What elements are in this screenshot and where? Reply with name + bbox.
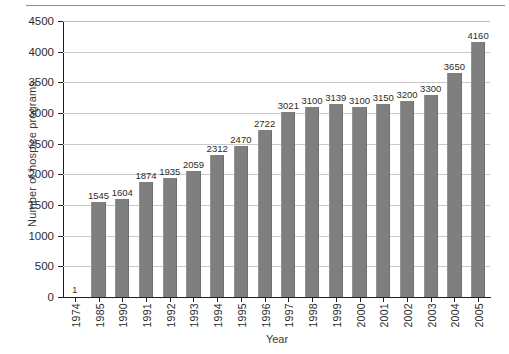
y-axis-label: 3500 [0, 76, 54, 88]
bar-1991[interactable] [139, 182, 153, 297]
value-label-1985: 1545 [88, 190, 109, 201]
bar-2003[interactable] [424, 95, 438, 297]
bar-1998[interactable] [305, 107, 319, 297]
x-tick-1995 [241, 298, 242, 302]
y-axis-label: 1000 [0, 230, 54, 242]
y-axis-label: 4500 [0, 15, 54, 27]
x-tick-2004 [454, 298, 455, 302]
bar-1985[interactable] [91, 202, 105, 297]
value-label-1994: 2312 [207, 143, 228, 154]
x-tick-1974 [75, 298, 76, 302]
value-label-2000: 3100 [349, 95, 370, 106]
bar-2001[interactable] [376, 104, 390, 297]
bar-chart-figure: Number of hospice programs 0500100015002… [0, 0, 509, 354]
x-axis-label-2000: 2000 [355, 303, 367, 328]
x-axis-label-2001: 2001 [378, 303, 390, 328]
x-axis-label-1999: 1999 [331, 303, 343, 328]
value-label-2003: 3300 [420, 83, 441, 94]
value-label-1995: 2470 [230, 134, 251, 145]
y-tick-0 [58, 297, 63, 298]
value-label-2002: 3200 [396, 89, 417, 100]
x-axis-label-2004: 2004 [449, 303, 461, 328]
x-tick-2001 [383, 298, 384, 302]
x-axis-label-1993: 1993 [188, 303, 200, 328]
x-tick-1990 [122, 298, 123, 302]
value-label-1992: 1935 [159, 166, 180, 177]
value-label-2005: 4160 [468, 30, 489, 41]
x-axis-label-1990: 1990 [117, 303, 129, 328]
x-tick-1999 [336, 298, 337, 302]
x-axis-label-1997: 1997 [283, 303, 295, 328]
x-tick-1992 [170, 298, 171, 302]
x-axis-label-2002: 2002 [402, 303, 414, 328]
x-tick-1991 [146, 298, 147, 302]
x-axis-label-1974: 1974 [70, 303, 82, 328]
value-label-2001: 3150 [373, 92, 394, 103]
bar-1993[interactable] [186, 171, 200, 297]
y-axis-label: 4000 [0, 46, 54, 58]
x-axis-label-1998: 1998 [307, 303, 319, 328]
value-label-2004: 3650 [444, 61, 465, 72]
value-label-1991: 1874 [135, 170, 156, 181]
y-axis-label: 1500 [0, 199, 54, 211]
x-axis-label-2005: 2005 [473, 303, 485, 328]
value-label-1996: 2722 [254, 118, 275, 129]
x-tick-1993 [193, 298, 194, 302]
x-axis-title: Year [0, 333, 509, 345]
x-tick-1997 [288, 298, 289, 302]
x-axis-label-1994: 1994 [212, 303, 224, 328]
bar-2000[interactable] [352, 107, 366, 297]
bar-1997[interactable] [281, 112, 295, 297]
bar-1995[interactable] [234, 146, 248, 297]
value-label-1997: 3021 [278, 100, 299, 111]
x-axis-label-1995: 1995 [236, 303, 248, 328]
value-label-1990: 1604 [112, 187, 133, 198]
value-label-1974: 1 [72, 285, 77, 295]
x-tick-1996 [265, 298, 266, 302]
bar-1990[interactable] [115, 199, 129, 297]
value-label-1999: 3139 [325, 92, 346, 103]
value-label-1998: 3100 [302, 95, 323, 106]
x-axis-label-2003: 2003 [426, 303, 438, 328]
bar-1994[interactable] [210, 155, 224, 297]
value-label-1993: 2059 [183, 159, 204, 170]
x-axis-label-1991: 1991 [141, 303, 153, 328]
bar-2005[interactable] [471, 42, 485, 297]
y-axis-label: 3000 [0, 107, 54, 119]
x-axis-label-1996: 1996 [260, 303, 272, 328]
x-axis-label-1992: 1992 [165, 303, 177, 328]
x-tick-2002 [407, 298, 408, 302]
x-axis-label-1985: 1985 [94, 303, 106, 328]
x-tick-2005 [478, 298, 479, 302]
bar-1996[interactable] [258, 130, 272, 297]
x-tick-1998 [312, 298, 313, 302]
bar-1999[interactable] [329, 104, 343, 297]
y-axis-label: 2000 [0, 168, 54, 180]
x-axis-line [63, 297, 491, 298]
x-tick-1985 [99, 298, 100, 302]
y-axis-label: 0 [0, 291, 54, 303]
y-axis-label: 500 [0, 260, 54, 272]
x-tick-1994 [217, 298, 218, 302]
bar-2002[interactable] [400, 101, 414, 297]
x-tick-2000 [360, 298, 361, 302]
y-axis-label: 2500 [0, 138, 54, 150]
x-tick-2003 [431, 298, 432, 302]
bar-2004[interactable] [447, 73, 461, 297]
figure-top-rule [26, 5, 505, 6]
bar-series [63, 21, 490, 297]
bar-1992[interactable] [163, 178, 177, 297]
